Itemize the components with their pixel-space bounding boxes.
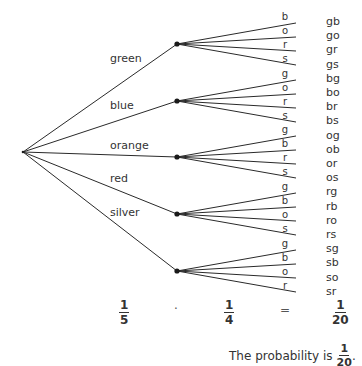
outcome-bo: bo	[326, 87, 340, 99]
second-branch-label-b: b	[278, 196, 292, 206]
tree-node	[174, 211, 179, 216]
second-branch-label-b: b	[278, 12, 292, 22]
root-node	[22, 151, 25, 154]
second-branch-label-b: b	[278, 253, 292, 263]
second-branch-label-r: r	[278, 40, 292, 50]
second-branch-label-s: s	[278, 111, 292, 121]
outcome-gb: gb	[326, 16, 340, 28]
second-branch-label-g: g	[278, 182, 292, 192]
branch-label-red: red	[110, 173, 128, 185]
outcome-og: og	[326, 130, 340, 142]
first-stage-branch-green	[23, 44, 177, 152]
branch-label-silver: silver	[110, 207, 140, 219]
fraction-one-fourth: 1 4	[224, 299, 234, 326]
branch-label-orange: orange	[110, 140, 149, 152]
denominator: 20	[332, 313, 349, 326]
tree-node	[174, 98, 179, 103]
second-branch-label-g: g	[278, 125, 292, 135]
tree-diagram	[0, 0, 362, 366]
outcome-os: os	[326, 172, 338, 184]
period: .	[352, 349, 356, 363]
second-branch-label-g: g	[278, 69, 292, 79]
first-stage-branch-silver	[23, 152, 177, 271]
branch-label-green: green	[110, 53, 142, 65]
denominator: 5	[120, 313, 128, 326]
second-branch-label-s: s	[278, 54, 292, 64]
outcome-bs: bs	[326, 115, 339, 127]
outcome-so: so	[326, 272, 338, 284]
fraction-result: 1 20	[332, 299, 349, 326]
numerator: 1	[224, 299, 234, 313]
second-branch-label-s: s	[278, 167, 292, 177]
equals-sign: =	[280, 303, 290, 317]
numerator: 1	[339, 343, 349, 356]
first-stage-branch-blue	[23, 101, 177, 152]
numerator: 1	[335, 299, 345, 313]
outcome-rg: rg	[326, 186, 337, 198]
second-branch-label-o: o	[278, 83, 292, 93]
second-branch-label-o: o	[278, 210, 292, 220]
conclusion-fraction: 1 20	[337, 343, 352, 366]
outcome-sb: sb	[326, 257, 339, 269]
outcome-ro: ro	[326, 215, 337, 227]
second-branch-label-b: b	[278, 139, 292, 149]
numerator: 1	[119, 299, 129, 313]
tree-node	[174, 268, 179, 273]
conclusion-sentence: The probability is 1 20 .	[229, 343, 356, 366]
outcome-gs: gs	[326, 59, 339, 71]
second-branch-label-g: g	[278, 239, 292, 249]
outcome-rb: rb	[326, 201, 338, 213]
second-branch-label-s: s	[278, 224, 292, 234]
outcome-go: go	[326, 30, 340, 42]
multiply-operator: ·	[174, 302, 178, 316]
outcome-ob: ob	[326, 144, 340, 156]
second-branch-label-r: r	[278, 97, 292, 107]
outcome-or: or	[326, 158, 337, 170]
second-branch-label-r: r	[278, 153, 292, 163]
second-branch-label-r: r	[278, 281, 292, 291]
second-branch-label-o: o	[278, 267, 292, 277]
outcome-br: br	[326, 101, 338, 113]
outcome-gr: gr	[326, 44, 338, 56]
first-stage-branch-red	[23, 152, 177, 214]
denominator: 4	[225, 313, 233, 326]
conclusion-text: The probability is	[229, 349, 333, 363]
branch-label-blue: blue	[110, 100, 134, 112]
fraction-one-fifth: 1 5	[119, 299, 129, 326]
outcome-sr: sr	[326, 286, 336, 298]
denominator: 20	[337, 356, 352, 366]
tree-node	[174, 154, 179, 159]
first-stage-branch-orange	[23, 152, 177, 157]
second-branch-label-o: o	[278, 26, 292, 36]
outcome-bg: bg	[326, 73, 340, 85]
outcome-rs: rs	[326, 229, 336, 241]
tree-node	[174, 41, 179, 46]
outcome-sg: sg	[326, 243, 339, 255]
